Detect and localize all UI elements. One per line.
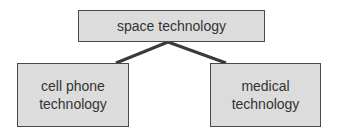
- edge-root-left: [116, 42, 168, 63]
- edge-root-right: [168, 42, 226, 63]
- node-label: medical technology: [232, 77, 300, 113]
- node-cell-phone-technology: cell phone technology: [17, 63, 129, 127]
- node-medical-technology: medical technology: [210, 63, 321, 127]
- node-space-technology: space technology: [78, 10, 265, 42]
- node-label: space technology: [117, 17, 226, 35]
- node-label: cell phone technology: [39, 77, 107, 113]
